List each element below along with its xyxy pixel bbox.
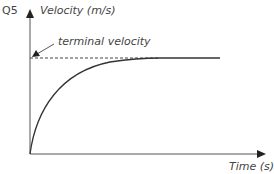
annotation-arrow-icon — [32, 50, 40, 57]
y-axis-arrow-icon — [26, 9, 34, 18]
annotation-arrow-line — [37, 44, 54, 54]
velocity-time-graph — [0, 0, 274, 174]
velocity-curve — [30, 58, 220, 154]
x-axis-arrow-icon — [257, 150, 266, 158]
